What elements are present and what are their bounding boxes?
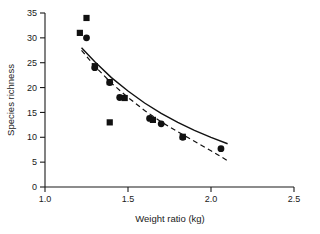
data-point-square — [180, 134, 186, 140]
x-tick-label: 1.0 — [39, 194, 52, 204]
fit-curves — [82, 48, 228, 161]
data-point-square — [107, 119, 113, 125]
y-tick-label: 5 — [32, 157, 37, 167]
y-axis-title: Species richness — [5, 64, 16, 136]
solid-fit-curve — [82, 48, 228, 144]
x-tick-label: 2.5 — [288, 194, 301, 204]
data-point-square — [150, 117, 156, 123]
data-point-square — [122, 95, 128, 101]
y-tick-label: 20 — [27, 83, 37, 93]
data-point-square — [83, 15, 89, 21]
y-tick-label: 30 — [27, 33, 37, 43]
data-point-circle — [83, 34, 90, 41]
axis-lines — [45, 13, 294, 187]
y-tick-label: 35 — [27, 8, 37, 18]
data-point-circle — [158, 120, 165, 127]
data-point-circle — [218, 145, 225, 152]
data-point-square — [92, 63, 98, 69]
x-tick-label: 2.0 — [205, 194, 218, 204]
x-tick-label: 1.5 — [122, 194, 135, 204]
y-tick-label: 25 — [27, 58, 37, 68]
dashed-fit-curve — [82, 50, 228, 160]
y-axis-ticks: 05101520253035 — [27, 8, 45, 192]
y-tick-label: 15 — [27, 108, 37, 118]
data-point-square — [107, 79, 113, 85]
chart-figure: 05101520253035 1.01.52.02.5 Weight ratio… — [0, 0, 320, 234]
x-axis-title: Weight ratio (kg) — [135, 213, 205, 224]
y-tick-label: 0 — [32, 182, 37, 192]
x-axis-ticks: 1.01.52.02.5 — [39, 187, 301, 204]
scatter-plot: 05101520253035 1.01.52.02.5 Weight ratio… — [0, 0, 320, 234]
data-point-square — [77, 30, 83, 36]
y-tick-label: 10 — [27, 132, 37, 142]
data-points — [77, 15, 225, 152]
